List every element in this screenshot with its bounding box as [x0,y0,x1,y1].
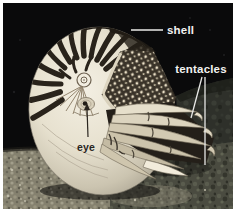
shell-label: shell [167,24,194,36]
eye-label: eye [77,141,95,153]
tentacles-label: tentacles [175,63,227,75]
nautilus-photo: shell tentacles eye [0,0,236,212]
annotated-nautilus-figure: shell tentacles eye [0,0,236,212]
